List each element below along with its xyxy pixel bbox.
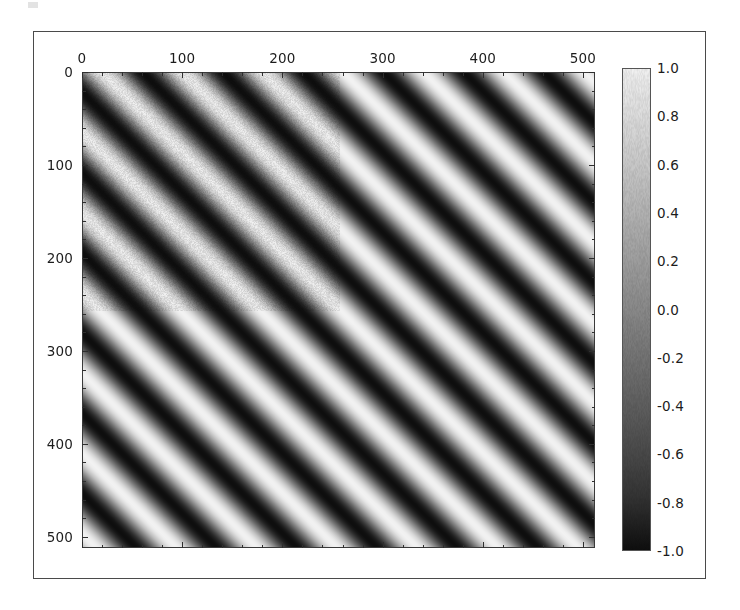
x-minor-tick [142, 545, 143, 549]
y-minor-tick [592, 500, 596, 501]
y-tick-label: 200 [47, 250, 73, 266]
x-minor-tick [363, 545, 364, 549]
y-minor-tick [82, 109, 86, 110]
y-minor-tick [82, 518, 86, 519]
x-minor-tick [162, 72, 163, 76]
x-minor-tick [443, 545, 444, 549]
x-major-tick [383, 72, 384, 78]
y-tick-label: 0 [64, 64, 73, 80]
y-minor-tick [592, 481, 596, 482]
x-minor-tick [122, 545, 123, 549]
x-minor-tick [423, 72, 424, 76]
x-minor-tick [543, 545, 544, 549]
x-tick-label: 400 [470, 50, 496, 66]
y-minor-tick [82, 202, 86, 203]
y-minor-tick [82, 277, 86, 278]
y-tick-label: 400 [47, 436, 73, 452]
x-minor-tick [102, 545, 103, 549]
x-minor-tick [122, 72, 123, 76]
y-minor-tick [592, 146, 596, 147]
x-major-tick [483, 72, 484, 78]
y-minor-tick [82, 295, 86, 296]
y-minor-tick [592, 407, 596, 408]
x-major-tick [383, 542, 384, 548]
y-minor-tick [592, 221, 596, 222]
y-major-tick [589, 444, 595, 445]
y-minor-tick [82, 91, 86, 92]
colorbar-tick-label: 0.0 [657, 302, 679, 318]
x-minor-tick [222, 545, 223, 549]
colorbar-tick-label: -0.6 [657, 446, 684, 462]
x-minor-tick [523, 545, 524, 549]
x-major-tick [82, 542, 83, 548]
y-minor-tick [592, 277, 596, 278]
y-minor-tick [82, 332, 86, 333]
x-minor-tick [503, 545, 504, 549]
y-minor-tick [592, 184, 596, 185]
y-minor-tick [82, 388, 86, 389]
colorbar-tick-label: 0.8 [657, 108, 679, 124]
y-minor-tick [82, 128, 86, 129]
x-minor-tick [343, 545, 344, 549]
x-minor-tick [363, 72, 364, 76]
y-minor-tick [592, 91, 596, 92]
y-minor-tick [592, 462, 596, 463]
y-minor-tick [592, 370, 596, 371]
x-minor-tick [503, 72, 504, 76]
colorbar-gradient [622, 68, 651, 551]
y-tick-label: 500 [47, 529, 73, 545]
x-major-tick [182, 542, 183, 548]
y-minor-tick [592, 332, 596, 333]
x-minor-tick [262, 545, 263, 549]
y-minor-tick [82, 462, 86, 463]
x-minor-tick [202, 72, 203, 76]
y-minor-tick [82, 221, 86, 222]
x-minor-tick [202, 545, 203, 549]
colorbar-tick-label: 0.2 [657, 253, 679, 269]
x-minor-tick [162, 545, 163, 549]
x-minor-tick [322, 72, 323, 76]
y-minor-tick [592, 295, 596, 296]
y-minor-tick [82, 239, 86, 240]
colorbar-tick-label: 0.4 [657, 205, 679, 221]
scan-artifact [28, 2, 38, 8]
y-major-tick [82, 258, 88, 259]
y-tick-label: 300 [47, 343, 73, 359]
y-major-tick [589, 72, 595, 73]
colorbar-tick-label: -0.4 [657, 398, 684, 414]
y-minor-tick [592, 425, 596, 426]
x-major-tick [583, 542, 584, 548]
colorbar-tick-label: -1.0 [657, 543, 684, 559]
x-minor-tick [543, 72, 544, 76]
heatmap-image [83, 73, 594, 547]
y-major-tick [589, 165, 595, 166]
x-minor-tick [262, 72, 263, 76]
colorbar-tick-label: 0.6 [657, 157, 679, 173]
y-major-tick [82, 537, 88, 538]
x-minor-tick [463, 545, 464, 549]
x-minor-tick [343, 72, 344, 76]
x-minor-tick [423, 545, 424, 549]
x-minor-tick [302, 545, 303, 549]
y-minor-tick [592, 314, 596, 315]
y-minor-tick [82, 370, 86, 371]
x-tick-label: 0 [78, 50, 87, 66]
x-minor-tick [403, 545, 404, 549]
y-minor-tick [592, 128, 596, 129]
x-minor-tick [463, 72, 464, 76]
x-minor-tick [563, 72, 564, 76]
y-major-tick [82, 444, 88, 445]
y-major-tick [82, 72, 88, 73]
y-minor-tick [82, 500, 86, 501]
y-minor-tick [82, 184, 86, 185]
x-minor-tick [563, 545, 564, 549]
x-major-tick [483, 542, 484, 548]
x-minor-tick [242, 72, 243, 76]
heatmap-axes-panel [82, 72, 595, 548]
y-minor-tick [82, 407, 86, 408]
x-minor-tick [242, 545, 243, 549]
x-minor-tick [102, 72, 103, 76]
colorbar-tick-label: -0.8 [657, 495, 684, 511]
y-minor-tick [82, 314, 86, 315]
y-major-tick [82, 165, 88, 166]
